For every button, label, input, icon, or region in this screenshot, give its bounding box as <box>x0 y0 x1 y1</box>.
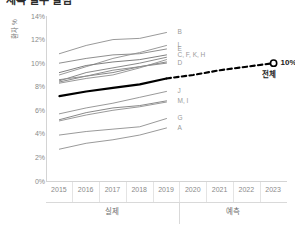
series-label-A: A <box>178 125 182 132</box>
x-axis-tick-label: 2015 <box>46 186 73 193</box>
x-axis-separator <box>99 182 100 202</box>
total-end-marker <box>271 60 277 66</box>
y-axis-tick-label: 2% <box>17 154 45 161</box>
series-label-D: D <box>178 60 183 67</box>
x-axis-ticks: 201520162017201820192020202120222023 <box>46 182 287 202</box>
y-axis-tick-label: 10% <box>17 60 45 67</box>
series-line-B <box>59 33 166 54</box>
total-name-annotation: 전체 <box>262 71 276 79</box>
x-axis-tick-label: 2022 <box>233 186 260 193</box>
x-axis-tick-label: 2020 <box>179 186 206 193</box>
x-axis-separator <box>126 182 127 202</box>
x-axis-separator <box>206 182 207 202</box>
group-band-top-rule <box>46 202 287 203</box>
series-line-전체 <box>59 78 166 96</box>
series-line-K <box>59 60 166 84</box>
y-axis-tick-label: 12% <box>17 36 45 43</box>
x-axis-groups: 실제예측 <box>46 202 287 224</box>
chart-title: 제목 일부 잘림 <box>6 0 186 7</box>
y-axis-tick-label: 8% <box>17 83 45 90</box>
series-line-I <box>59 102 166 121</box>
x-axis-separator <box>233 182 234 202</box>
x-axis-separator <box>179 182 180 202</box>
plot-area <box>46 16 287 181</box>
y-axis-tick-label: 14% <box>17 13 45 20</box>
series-label-C: C, F, K, H <box>178 52 206 59</box>
chart-container: 제목 일부 잘림 환자 % 0%2%4%6%8%10%12%14% BLEC, … <box>0 0 295 225</box>
y-axis-tick-label: 4% <box>17 130 45 137</box>
x-axis-separator <box>260 182 261 202</box>
series-label-B: B <box>178 29 182 36</box>
series-label-G: G <box>178 115 183 122</box>
x-axis-tick-label: 2018 <box>126 186 153 193</box>
series-lines <box>46 16 287 181</box>
x-axis-separator <box>72 182 73 202</box>
series-line-전체-예측 <box>167 63 274 78</box>
chart-title-text: 제목 일부 잘림 <box>6 0 186 6</box>
x-group-separator <box>179 202 180 224</box>
y-axis-tick-label: 6% <box>17 107 45 114</box>
x-axis-tick-label: 2017 <box>99 186 126 193</box>
total-value-annotation: 10% <box>281 59 295 67</box>
x-axis-separator <box>153 182 154 202</box>
series-label-J: J <box>178 88 181 95</box>
x-axis-tick-label: 2019 <box>153 186 180 193</box>
x-group-label: 실제 <box>46 208 180 216</box>
x-axis-tick-label: 2016 <box>72 186 99 193</box>
y-axis-tick-label: 0% <box>17 178 45 185</box>
x-axis-tick-label: 2021 <box>206 186 233 193</box>
x-group-label: 예측 <box>179 208 286 216</box>
series-line-A <box>59 128 166 149</box>
x-axis-tick-label: 2023 <box>260 186 287 193</box>
series-label-M: M, I <box>178 98 189 105</box>
series-line-D <box>59 63 166 80</box>
